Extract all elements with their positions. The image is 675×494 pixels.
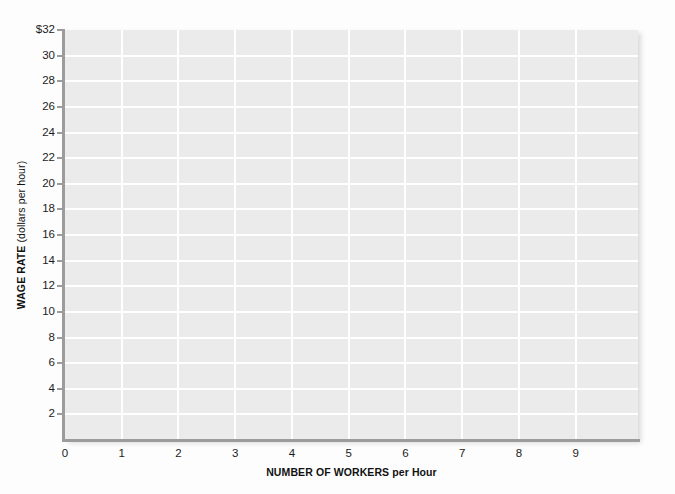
y-axis-tick-label: 22 <box>0 152 55 164</box>
y-axis-tick-mark <box>57 157 62 159</box>
y-axis-tick-label: 30 <box>0 50 55 62</box>
y-axis-tick-mark <box>57 388 62 390</box>
y-axis-tick-label: 24 <box>0 127 55 139</box>
y-axis-tick-mark <box>57 362 62 364</box>
x-axis-tick-label: 4 <box>272 448 312 460</box>
x-axis-tick-label: 3 <box>215 448 255 460</box>
gridline-vertical <box>234 30 236 440</box>
gridline-vertical <box>121 30 123 440</box>
y-axis-tick-label: 12 <box>0 280 55 292</box>
gridline-horizontal <box>65 106 638 108</box>
x-axis-tick-label: 1 <box>102 448 142 460</box>
y-axis-tick-mark <box>57 337 62 339</box>
gridline-vertical <box>404 30 406 440</box>
wage-rate-vs-workers-chart: $3230282624222018161412108642 0123456789… <box>0 0 675 494</box>
x-axis-title: NUMBER OF WORKERS per Hour <box>65 466 638 478</box>
gridline-vertical <box>177 30 179 440</box>
y-axis-tick-mark <box>57 106 62 108</box>
gridline-horizontal <box>65 337 638 339</box>
y-axis-tick-label: 6 <box>0 357 55 369</box>
gridline-horizontal <box>65 80 638 82</box>
y-axis-tick-label: 18 <box>0 203 55 215</box>
x-axis-line <box>62 439 640 442</box>
y-axis-tick-mark <box>57 183 62 185</box>
gridline-horizontal <box>65 234 638 236</box>
y-axis-tick-mark <box>57 311 62 313</box>
gridline-horizontal <box>65 208 638 210</box>
x-axis-tick-label: 9 <box>556 448 596 460</box>
gridline-horizontal <box>65 260 638 262</box>
gridline-horizontal <box>65 132 638 134</box>
gridline-vertical <box>461 30 463 440</box>
y-axis-tick-label: 2 <box>0 408 55 420</box>
gridline-vertical <box>575 30 577 440</box>
y-axis-tick-mark <box>57 260 62 262</box>
gridline-vertical <box>348 30 350 440</box>
gridline-horizontal <box>65 55 638 57</box>
y-axis-tick-mark <box>57 234 62 236</box>
gridline-horizontal <box>65 413 638 415</box>
x-axis-tick-label: 5 <box>329 448 369 460</box>
y-axis-tick-label: 20 <box>0 178 55 190</box>
y-axis-tick-label: 10 <box>0 306 55 318</box>
y-axis-tick-label: 16 <box>0 229 55 241</box>
plot-area <box>65 30 638 440</box>
gridline-vertical <box>291 30 293 440</box>
x-axis-tick-label: 2 <box>158 448 198 460</box>
y-axis-tick-mark <box>57 208 62 210</box>
y-axis-title-regular: (dollars per hour) <box>15 161 27 246</box>
gridline-horizontal <box>65 285 638 287</box>
x-axis-tick-label: 0 <box>45 448 85 460</box>
y-axis-tick-label: 8 <box>0 332 55 344</box>
y-axis-tick-label: 14 <box>0 255 55 267</box>
y-axis-tick-mark <box>57 80 62 82</box>
gridline-vertical <box>518 30 520 440</box>
y-axis-tick-label: $32 <box>0 24 55 36</box>
y-axis-tick-mark <box>57 413 62 415</box>
gridline-horizontal <box>65 311 638 313</box>
gridline-horizontal <box>65 388 638 390</box>
y-axis-line <box>62 29 65 441</box>
x-axis-title-text: NUMBER OF WORKERS per Hour <box>266 466 437 478</box>
x-axis-tick-label: 8 <box>499 448 539 460</box>
x-axis-tick-label: 7 <box>442 448 482 460</box>
y-axis-title-bold: WAGE RATE <box>15 246 27 310</box>
x-axis-tick-label: 6 <box>385 448 425 460</box>
y-axis-tick-label: 28 <box>0 75 55 87</box>
y-axis-tick-label: 4 <box>0 383 55 395</box>
y-axis-tick-mark <box>57 132 62 134</box>
y-axis-tick-mark <box>57 55 62 57</box>
y-axis-tick-mark <box>57 29 62 31</box>
y-axis-tick-label: 26 <box>0 101 55 113</box>
gridline-horizontal <box>65 157 638 159</box>
y-axis-title: WAGE RATE (dollars per hour) <box>15 161 27 310</box>
gridline-horizontal <box>65 362 638 364</box>
gridline-horizontal <box>65 183 638 185</box>
y-axis-tick-mark <box>57 285 62 287</box>
y-axis-tick-labels: $3230282624222018161412108642 <box>0 0 55 494</box>
